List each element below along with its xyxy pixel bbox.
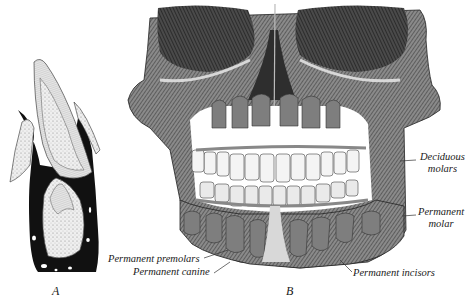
panel-b-skull [128, 4, 440, 268]
anatomy-illustration [0, 0, 472, 306]
label-permanent-molar-line2: molar [418, 218, 464, 230]
label-deciduous-molars-line2: molars [420, 163, 465, 175]
label-deciduous-molars-line1: Deciduous [420, 151, 465, 163]
label-permanent-incisors: Permanent incisors [353, 267, 435, 279]
panel-letter-b: B [286, 284, 293, 299]
label-permanent-molar: Permanent molar [418, 206, 464, 230]
label-permanent-molar-line1: Permanent [418, 206, 464, 218]
label-deciduous-molars: Deciduous molars [420, 151, 465, 175]
label-permanent-premolars: Permanent premolars [108, 253, 199, 265]
panel-letter-a: A [52, 284, 59, 299]
panel-a-tooth-section [10, 59, 100, 272]
label-permanent-canine: Permanent canine [133, 266, 210, 278]
